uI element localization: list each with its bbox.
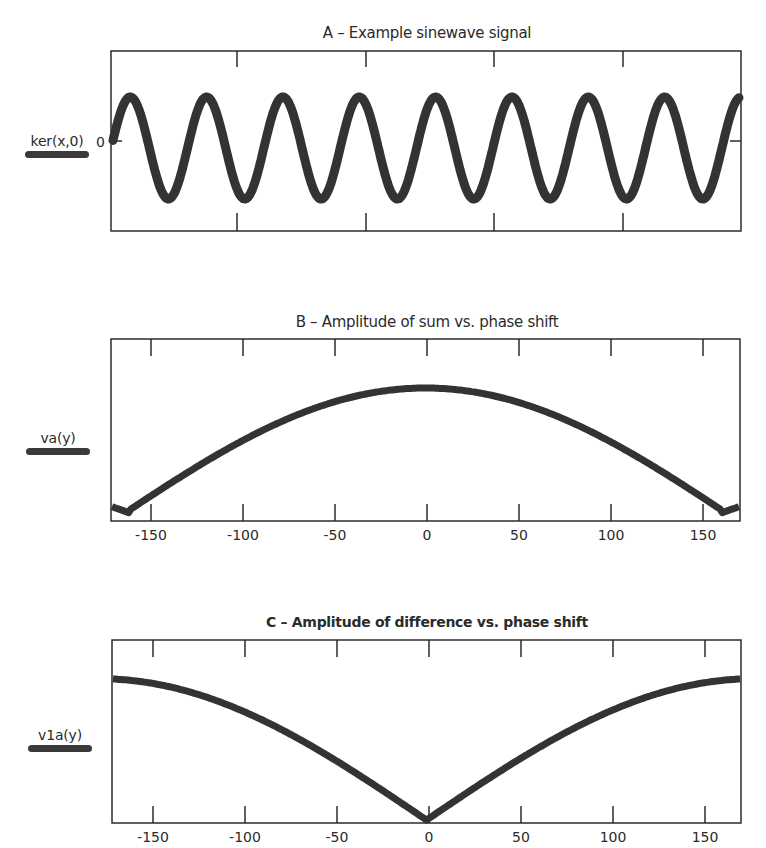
x-tick-label: 100	[598, 527, 625, 543]
panel-a-sine-line	[113, 97, 739, 199]
x-tick-label: -150	[135, 527, 167, 543]
x-tick-label: 100	[600, 829, 627, 845]
panel-c-axes	[112, 640, 741, 823]
x-tick-label: -150	[137, 829, 169, 845]
panel-c-amplitude-difference-line	[113, 679, 740, 820]
x-tick-label: 0	[425, 829, 434, 845]
x-tick-label: -50	[324, 527, 347, 543]
x-tick-label: 150	[692, 829, 719, 845]
x-tick-label: 0	[423, 527, 432, 543]
x-tick-label: 50	[510, 527, 528, 543]
x-tick-label: -100	[229, 829, 261, 845]
panel-b-amplitude-sum-line	[112, 388, 739, 513]
x-tick-label: 150	[690, 527, 717, 543]
x-tick-label: -100	[227, 527, 259, 543]
panel-b-axes	[111, 339, 740, 521]
x-tick-label: 50	[512, 829, 530, 845]
plot-canvas	[0, 0, 766, 848]
x-tick-label: -50	[326, 829, 349, 845]
